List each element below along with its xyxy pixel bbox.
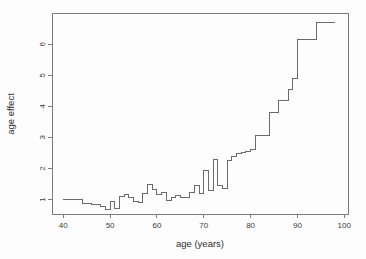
x-axis-label: age (years) (176, 238, 224, 249)
x-tick-label: 50 (106, 221, 115, 230)
y-tick-label: 3 (39, 135, 48, 140)
x-tick-label: 90 (293, 221, 302, 230)
x-tick-label: 40 (59, 221, 68, 230)
y-tick-label: 1 (39, 197, 48, 202)
x-tick-label: 80 (246, 221, 255, 230)
step-line (63, 23, 335, 210)
x-tick-label: 100 (338, 221, 352, 230)
plot-canvas: 405060708090100 123456 age (years) age e… (0, 0, 366, 259)
y-axis-label: age effect (5, 93, 16, 135)
y-tick-label: 4 (39, 104, 48, 109)
x-axis-ticks: 405060708090100 (59, 214, 352, 230)
plot-box (52, 13, 348, 214)
x-tick-label: 70 (199, 221, 208, 230)
x-tick-label: 60 (152, 221, 161, 230)
age-effect-step-plot: 405060708090100 123456 age (years) age e… (0, 0, 366, 259)
y-axis-ticks: 123456 (39, 42, 53, 202)
y-tick-label: 5 (39, 73, 48, 78)
y-tick-label: 6 (39, 42, 48, 47)
y-tick-label: 2 (39, 166, 48, 171)
